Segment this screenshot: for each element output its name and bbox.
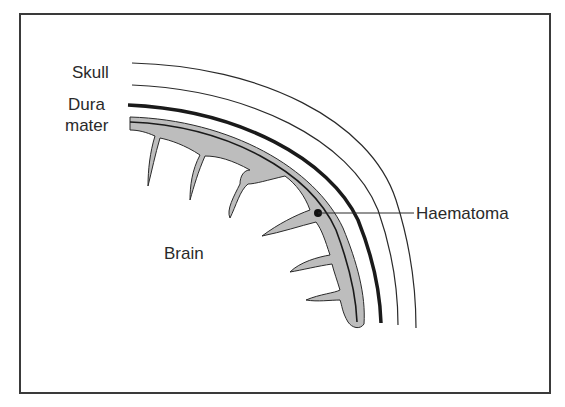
- label-dura-mater-line2: mater: [65, 117, 108, 135]
- label-skull: Skull: [72, 64, 109, 82]
- label-haematoma: Haematoma: [416, 205, 509, 223]
- label-dura-mater-line1: Dura: [68, 96, 105, 114]
- label-brain: Brain: [164, 245, 204, 263]
